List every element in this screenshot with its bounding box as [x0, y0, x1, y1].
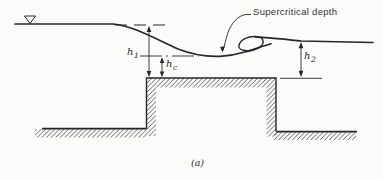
- weir-block: [147, 78, 277, 137]
- hc-dimension-arrow: [160, 57, 164, 77]
- hydraulic-jump-roller: [239, 36, 263, 50]
- h1-label: h1: [127, 47, 139, 59]
- downstream-surface-line: [255, 37, 373, 43]
- annotation-leader-arrow: [220, 15, 251, 53]
- h2-label: h2: [304, 51, 316, 63]
- left-channel-floor: [35, 129, 147, 138]
- right-channel-floor: [274, 132, 357, 140]
- h2-label-base: h: [304, 50, 310, 61]
- h1-label-subscript: 1: [134, 51, 139, 60]
- weir-flow-diagram: Supercritical depth h1 hc h2 (a): [0, 0, 383, 180]
- hc-label: hc: [166, 59, 177, 71]
- water-surface-line: [15, 24, 271, 56]
- h1-dimension-arrow: [147, 26, 152, 77]
- h2-dimension-arrow: [299, 42, 304, 77]
- hc-label-base: h: [166, 58, 172, 69]
- supercritical-depth-label: Supercritical depth: [253, 7, 337, 17]
- h1-label-base: h: [127, 46, 133, 57]
- diagram-canvas: [0, 0, 383, 180]
- hc-label-subscript: c: [173, 63, 177, 72]
- h2-label-subscript: 2: [311, 55, 316, 64]
- water-surface-nabla-icon: [25, 16, 36, 24]
- figure-caption: (a): [191, 158, 204, 168]
